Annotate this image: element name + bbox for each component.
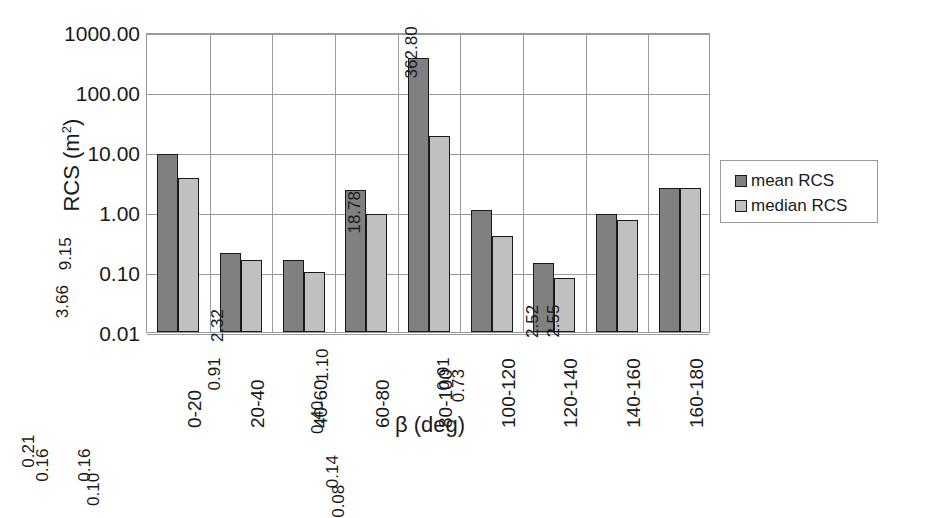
y-axis-tick-label: 1.00 xyxy=(30,203,140,224)
x-axis-category-label: 120-140 xyxy=(561,358,580,428)
bar-group: 0.210.16 xyxy=(210,34,273,332)
bar-value-label: 0.08 xyxy=(330,485,572,518)
bar-group: 0.140.08 xyxy=(523,34,586,332)
x-axis-title: β (deg) xyxy=(330,412,530,438)
bar-value-label: 2.55 xyxy=(546,304,698,337)
bar-group: 362.8018.78 xyxy=(398,34,461,332)
bar-group: 2.320.91 xyxy=(335,34,398,332)
bar-value-label: 362.80 xyxy=(403,27,425,79)
bar-group: 1.100.40 xyxy=(460,34,523,332)
bar-mean xyxy=(471,210,492,332)
bar-value-label: 0.10 xyxy=(85,473,321,506)
legend-swatch-icon xyxy=(735,200,747,212)
y-axis-tick-label: 100.00 xyxy=(30,83,140,104)
y-axis-tick-label: 0.01 xyxy=(30,323,140,344)
y-axis-tick-label: 10.00 xyxy=(30,143,140,164)
x-axis-category-label: 160-180 xyxy=(687,358,706,428)
x-axis-category-label: 140-160 xyxy=(624,358,643,428)
bar-value-label: 18.78 xyxy=(347,191,447,234)
y-axis-tick-label: 1000.00 xyxy=(30,23,140,44)
x-axis-category-label: 20-40 xyxy=(248,379,267,428)
bar-value-label: 3.66 xyxy=(54,285,196,318)
legend-swatch-icon xyxy=(735,175,747,187)
legend-entry[interactable]: mean RCS xyxy=(735,169,877,192)
bar-group: 0.910.73 xyxy=(586,34,649,332)
x-axis-category-label: 0-20 xyxy=(185,390,204,428)
bar-group: 0.160.10 xyxy=(272,34,335,332)
bar-group: 2.522.55 xyxy=(648,34,711,332)
legend: mean RCSmedian RCS xyxy=(720,160,878,223)
bar-value-label: 0.14 xyxy=(324,455,551,488)
legend-label: median RCS xyxy=(751,197,847,214)
y-axis-tick-labels: 1000.00100.0010.001.000.100.01 xyxy=(28,0,140,453)
x-axis-category-label: 40-60 xyxy=(311,379,330,428)
legend-label: mean RCS xyxy=(751,172,834,189)
legend-entry[interactable]: median RCS xyxy=(735,194,877,217)
bar-group: 9.153.66 xyxy=(147,34,210,332)
plot-area: 9.153.660.210.160.160.102.320.91362.8018… xyxy=(146,33,710,333)
bar-median xyxy=(429,136,450,332)
bar-median xyxy=(492,236,513,332)
bar-value-label: 9.15 xyxy=(57,238,175,271)
